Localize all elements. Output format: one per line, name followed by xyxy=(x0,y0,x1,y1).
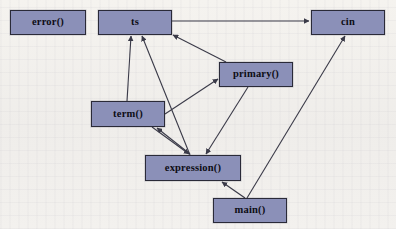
diagram-canvas: error() ts cin primary() term() expressi… xyxy=(0,0,396,229)
node-ts[interactable]: ts xyxy=(98,10,172,35)
node-term[interactable]: term() xyxy=(91,101,165,127)
edge-main-to-cin xyxy=(247,36,345,198)
edge-expression-to-term xyxy=(157,128,190,154)
edge-primary-to-expression xyxy=(206,87,248,154)
edge-term-to-expression xyxy=(152,127,189,154)
edge-main-to-expression xyxy=(222,182,245,198)
node-main[interactable]: main() xyxy=(213,198,287,223)
node-error[interactable]: error() xyxy=(10,10,86,35)
node-expression[interactable]: expression() xyxy=(145,155,241,181)
node-cin[interactable]: cin xyxy=(311,10,385,35)
edge-term-to-ts xyxy=(127,36,131,101)
node-primary[interactable]: primary() xyxy=(219,62,293,87)
edge-term-to-primary xyxy=(165,79,218,114)
edge-primary-to-ts xyxy=(173,35,226,62)
